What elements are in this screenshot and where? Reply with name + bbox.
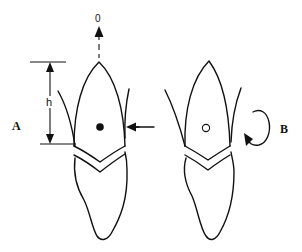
height-label: h [46, 96, 52, 108]
gingiva-right-a [125, 89, 129, 138]
panel-a-label: A [12, 119, 21, 133]
center-of-rotation-circle [202, 124, 209, 131]
height-dimension: h [30, 62, 76, 144]
center-of-resistance-dot [96, 123, 104, 131]
tooth-root-b [184, 152, 234, 239]
cej-line-lower-a [74, 154, 125, 172]
vertical-displacement-arrow [95, 26, 104, 58]
gingiva-right-b [231, 88, 241, 142]
tooth-crown-a [74, 62, 125, 146]
panel-b-label: B [280, 122, 288, 136]
gingiva-left-a [58, 91, 75, 146]
panel-b: B [165, 61, 288, 239]
cej-line-upper-b [185, 146, 230, 160]
gingiva-left-b [165, 90, 185, 146]
rotation-moment-arrow [244, 110, 270, 146]
horizontal-force-arrow [126, 123, 154, 132]
tooth-root-a [75, 152, 128, 239]
tooth-crown-b [185, 61, 230, 146]
cej-line-lower-b [185, 155, 230, 170]
panel-a: A 0 h [12, 13, 154, 239]
force-zero-label: 0 [95, 13, 101, 24]
tooth-force-diagram: A 0 h [0, 0, 302, 252]
